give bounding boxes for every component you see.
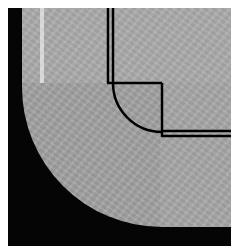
- corner-arc: [113, 83, 162, 132]
- outline-overlay: [0, 0, 240, 251]
